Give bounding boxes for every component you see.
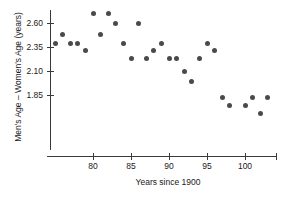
y-axis-line — [50, 10, 51, 150]
x-axis-tick-label: 80 — [81, 161, 105, 171]
data-point — [182, 69, 187, 74]
y-axis-tick — [47, 23, 54, 24]
data-point — [53, 41, 58, 46]
data-point — [227, 103, 232, 108]
x-axis-tick-label: 90 — [157, 161, 181, 171]
y-axis-tick-label: 1.85 — [9, 90, 43, 100]
data-point — [136, 21, 141, 26]
x-axis-tick — [245, 153, 246, 160]
data-point — [91, 11, 96, 16]
x-axis-tick-label: 85 — [119, 161, 143, 171]
data-point — [159, 41, 164, 46]
scatter-chart: Men's Age – Women's Age (years) 2.602.35… — [0, 0, 286, 199]
data-point — [68, 41, 73, 46]
y-axis-tick — [47, 71, 54, 72]
data-point — [129, 56, 134, 61]
y-axis-tick — [47, 95, 54, 96]
plot-area: 2.602.352.101.8580859095100 — [0, 0, 286, 199]
data-point — [220, 95, 225, 100]
y-axis-tick-label: 2.10 — [9, 66, 43, 76]
data-point — [113, 21, 118, 26]
y-axis-tick-label: 2.60 — [9, 18, 43, 28]
x-axis-tick — [207, 153, 208, 160]
data-point — [197, 56, 202, 61]
x-axis-tick — [131, 153, 132, 160]
x-axis-end-cap — [276, 153, 277, 160]
data-point — [189, 79, 194, 84]
data-point — [121, 41, 126, 46]
data-point — [258, 111, 263, 116]
data-point — [174, 56, 179, 61]
x-axis-tick — [169, 153, 170, 160]
data-point — [243, 103, 248, 108]
data-point — [98, 32, 103, 37]
x-axis-label: Years since 1900 — [58, 177, 278, 187]
data-point — [151, 48, 156, 53]
x-axis-tick-label: 100 — [233, 161, 257, 171]
data-point — [60, 32, 65, 37]
data-point — [106, 11, 111, 16]
data-point — [167, 56, 172, 61]
x-axis-tick-label: 95 — [195, 161, 219, 171]
data-point — [75, 41, 80, 46]
data-point — [265, 95, 270, 100]
data-point — [83, 48, 88, 53]
x-axis-tick — [93, 153, 94, 160]
data-point — [205, 41, 210, 46]
data-point — [212, 48, 217, 53]
data-point — [144, 56, 149, 61]
data-point — [250, 95, 255, 100]
y-axis-tick — [47, 47, 54, 48]
x-axis-line — [47, 156, 276, 157]
y-axis-tick-label: 2.35 — [9, 42, 43, 52]
